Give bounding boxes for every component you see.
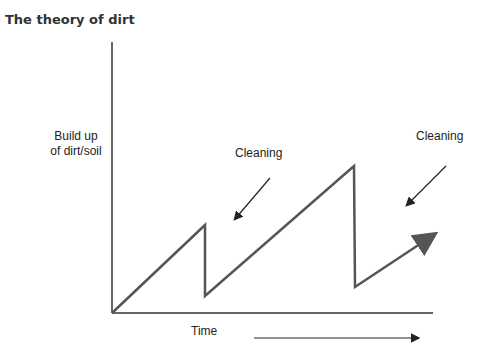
y-axis-label: Build up of dirt/soil [45, 129, 107, 159]
y-label-line2: of dirt/soil [50, 144, 101, 158]
cleaning-label-1: Cleaning [235, 146, 282, 161]
cleaning-label-2: Cleaning [416, 129, 463, 144]
dirt-buildup-line [112, 166, 432, 313]
x-axis-label: Time [191, 324, 217, 339]
y-label-line1: Build up [54, 129, 97, 143]
cleaning-arrow-2 [407, 166, 446, 205]
cleaning-arrow-1 [235, 178, 270, 219]
dirt-theory-diagram [0, 0, 489, 362]
